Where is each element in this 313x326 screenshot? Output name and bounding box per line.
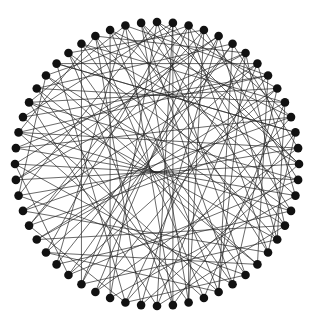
network-graph (0, 0, 313, 326)
graph-node (137, 19, 146, 28)
graph-node (106, 294, 115, 303)
graph-node (52, 260, 61, 269)
graph-edge (157, 22, 277, 88)
graph-node (294, 176, 303, 185)
graph-node (19, 207, 28, 216)
graph-edge (173, 132, 296, 305)
graph-node (253, 260, 262, 269)
graph-edge (110, 196, 295, 298)
graph-node (228, 280, 237, 289)
graph-node (281, 98, 290, 107)
graph-node (32, 235, 41, 244)
graph-node (273, 84, 282, 93)
graph-node (214, 288, 223, 297)
graph-node (214, 32, 223, 41)
graph-edge (57, 26, 126, 265)
graph-node (241, 271, 250, 280)
graph-node (25, 221, 34, 230)
graph-node (200, 294, 209, 303)
graph-node (11, 160, 20, 169)
graph-node (32, 84, 41, 93)
graph-node (52, 59, 61, 68)
graph-node (14, 128, 23, 137)
graph-node (273, 235, 282, 244)
graph-node (264, 71, 273, 80)
graph-node (295, 160, 304, 169)
graph-node (77, 280, 86, 289)
graph-node (281, 221, 290, 230)
graph-edge (19, 22, 157, 196)
graph-node (64, 49, 73, 58)
graph-edge (23, 117, 291, 211)
graph-node (287, 113, 296, 122)
graph-node (91, 32, 100, 41)
graph-node (291, 128, 300, 137)
graph-node (169, 301, 178, 310)
graph-node (200, 26, 209, 35)
graph-node (12, 176, 21, 185)
graph-node (287, 207, 296, 216)
graph-node (153, 302, 162, 311)
graph-edge (57, 211, 291, 265)
graph-node (291, 191, 300, 200)
graph-node (264, 248, 273, 257)
graph-node (106, 26, 115, 35)
graph-edge (141, 23, 299, 164)
graph-node (91, 288, 100, 297)
graph-node (184, 298, 193, 307)
graph-node (42, 71, 51, 80)
graph-edge (268, 132, 295, 252)
graph-node (12, 144, 21, 153)
graph-node (184, 21, 193, 30)
graph-node (19, 113, 28, 122)
graph-node (121, 298, 130, 307)
graph-node (137, 301, 146, 310)
graph-node (14, 191, 23, 200)
graph-node (228, 39, 237, 48)
graph-node (77, 39, 86, 48)
graph-node (64, 271, 73, 280)
graph-node (153, 18, 162, 27)
graph-node (241, 49, 250, 58)
graph-node (121, 21, 130, 30)
graph-edge (68, 30, 203, 53)
graph-node (169, 19, 178, 28)
graph-node (42, 248, 51, 257)
graph-edge (15, 164, 68, 275)
graph-node (253, 59, 262, 68)
graph-edge (157, 22, 299, 164)
graph-edge (19, 75, 46, 195)
graph-node (25, 98, 34, 107)
graph-node (294, 144, 303, 153)
